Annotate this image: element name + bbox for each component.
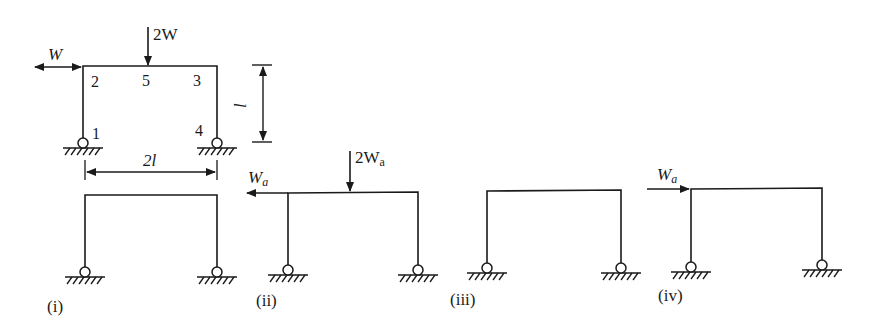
horizontal-load-label: W — [48, 45, 64, 64]
horizontal-load-label: Wa — [248, 168, 268, 189]
node-label-2: 2 — [91, 73, 99, 90]
pin-support — [283, 265, 293, 275]
main-frame: W 2W 2 5 3 1 4 l 2l — [35, 25, 272, 180]
case-iii-frame: (iii) — [450, 190, 641, 309]
span-dimension-label: 2l — [143, 151, 157, 170]
case-label-i: (i) — [47, 297, 63, 316]
pin-support — [212, 267, 222, 277]
pin-support-4 — [197, 138, 237, 155]
case-iv-frame: Wa (iv) — [647, 165, 842, 305]
node-label-5: 5 — [142, 72, 150, 89]
pin-support — [686, 262, 696, 272]
height-dimension-label: l — [231, 103, 250, 108]
pin-support — [616, 263, 626, 273]
pin-support — [80, 267, 90, 277]
case-label-ii: (ii) — [256, 291, 277, 310]
height-dimension — [252, 65, 272, 142]
case-ii-frame: Wa 2Wa (ii) — [247, 148, 438, 310]
horizontal-load-label: Wa — [657, 165, 677, 186]
case-i-frame: (i) — [47, 195, 237, 316]
vertical-load-label: 2W — [153, 25, 179, 44]
node-label-1: 1 — [92, 125, 100, 142]
case-label-iv: (iv) — [658, 286, 683, 305]
node-label-4: 4 — [195, 122, 203, 139]
pin-support — [413, 265, 423, 275]
pin-support — [817, 260, 827, 270]
case-label-iii: (iii) — [450, 290, 476, 309]
pin-support — [482, 263, 492, 273]
node-label-3: 3 — [193, 72, 201, 89]
vertical-load-label: 2Wa — [355, 148, 386, 169]
